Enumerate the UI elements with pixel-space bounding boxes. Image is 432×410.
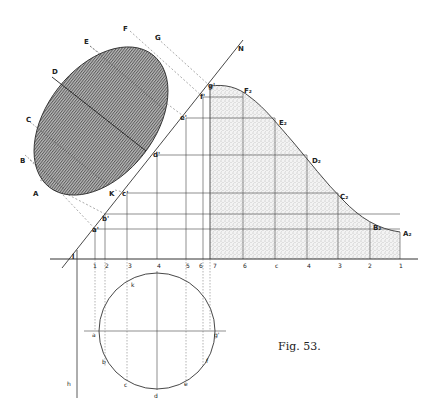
plan-circle <box>84 259 226 390</box>
ellipse-label-D: D <box>52 68 58 76</box>
axis-label-d1: d' <box>153 151 160 159</box>
ellipse-label-F: F <box>123 25 128 33</box>
ground-ticks-left: 1234567 <box>93 262 217 269</box>
ellipse-label-G: G <box>155 34 161 42</box>
tick-right-2: 4 <box>307 262 311 269</box>
ellipse-label-K: K <box>109 190 115 198</box>
curve-label-C2: C₂ <box>340 193 348 201</box>
curve-label-F2: F₂ <box>244 87 252 95</box>
ellipse-label-B: B <box>20 157 25 165</box>
axis-label-e1: e' <box>180 114 187 122</box>
tick-right-1: c <box>275 262 278 269</box>
circle-labels: kabcdefg'h <box>67 281 220 399</box>
geometric-projection-figure: ABCDEFGK Na'b'c'd'e'f'g'l F₂E₂D₂C₂B₂A₂ 1… <box>0 0 432 410</box>
tick-left-2: 3 <box>128 262 132 269</box>
axis-label-b1: b' <box>102 215 109 223</box>
circle-label-b: b <box>102 358 106 365</box>
tick-left-4: 5 <box>186 262 190 269</box>
tick-left-3: 4 <box>157 262 161 269</box>
axis-label-g1: g' <box>208 82 215 90</box>
tick-left-1: 2 <box>105 262 109 269</box>
tick-right-5: 1 <box>399 262 403 269</box>
circle-label-k: k <box>131 281 135 288</box>
ellipse-label-A: A <box>33 190 39 198</box>
curve-label-B2: B₂ <box>373 224 381 232</box>
circle-label-h: h <box>67 380 71 387</box>
ellipse-label-C: C <box>26 116 31 124</box>
circle-label-e: e <box>184 380 188 387</box>
axis-label-l: l <box>72 253 74 261</box>
tick-right-4: 2 <box>368 262 372 269</box>
developed-curve-area <box>210 85 400 259</box>
tick-right-0: 6 <box>243 262 247 269</box>
curve-label-D2: D₂ <box>312 157 321 165</box>
tick-right-3: 3 <box>338 262 342 269</box>
circle-label-g: g' <box>214 331 220 339</box>
ground-ticks-right: 6c4321 <box>243 262 403 269</box>
ellipse-label-E: E <box>84 38 89 46</box>
circle-label-c: c <box>124 381 127 388</box>
circle-label-a: a <box>92 331 96 338</box>
axis-label-c1: c' <box>122 190 128 198</box>
curve-label-E2: E₂ <box>279 119 287 127</box>
axis-label-a1: a' <box>92 226 99 234</box>
axis-label-N: N <box>238 45 244 53</box>
tick-left-5: 6 <box>199 262 203 269</box>
curve-label-A2: A₂ <box>403 230 411 238</box>
circle-label-d: d <box>154 392 158 399</box>
axis-label-f1: f' <box>200 93 205 101</box>
tick-left-0: 1 <box>93 262 97 269</box>
figure-caption: Fig. 53. <box>278 340 321 353</box>
tick-left-6: 7 <box>213 262 217 269</box>
